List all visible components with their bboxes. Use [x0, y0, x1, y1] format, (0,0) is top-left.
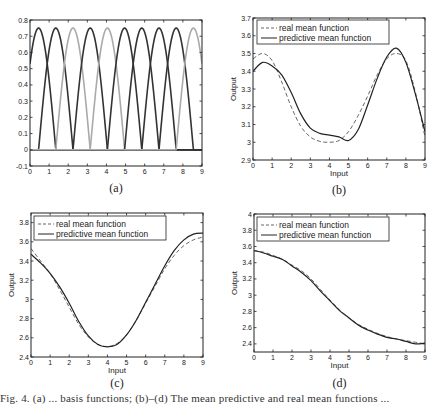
y-tick-label: 4: [248, 211, 252, 218]
y-tick-label: 3.1: [241, 121, 251, 128]
x-tick-label: 0: [28, 168, 32, 175]
y-tick-label: 3.6: [19, 238, 29, 245]
figure: 0123456789-0.100.10.20.30.40.50.60.70.8(…: [0, 0, 442, 405]
x-tick-label: 8: [404, 162, 408, 169]
predictive-mean-line: [253, 48, 425, 141]
x-tick-label: 2: [67, 359, 71, 366]
plot-area: [31, 233, 203, 347]
y-axis-label: Output: [7, 272, 16, 297]
basis-curve-basis-2: [30, 28, 202, 150]
y-tick-label: 3.2: [242, 275, 252, 282]
x-tick-label: 2: [290, 354, 294, 361]
x-tick-label: 4: [104, 168, 108, 175]
plot-area: [254, 251, 425, 344]
y-tick-label: 3.2: [241, 103, 251, 110]
x-tick-label: 5: [347, 354, 351, 361]
x-tick-label: 4: [327, 162, 331, 169]
y-tick-label: 0.3: [18, 98, 28, 105]
y-axis-label: Output: [230, 270, 239, 295]
y-tick-label: 3.4: [242, 259, 252, 266]
legend-entry-label: predictive mean function: [56, 229, 148, 239]
x-tick-label: 7: [385, 162, 389, 169]
plot-area: [30, 28, 202, 150]
panel-label: (a): [109, 181, 122, 195]
x-tick-label: 2: [66, 168, 70, 175]
basis-curve-basis-9: [30, 28, 202, 150]
legend-entry-label: real mean function: [56, 219, 126, 229]
y-tick-label: 3.8: [19, 219, 29, 226]
y-tick-label: 3.8: [242, 227, 252, 234]
panel-label: (d): [333, 376, 347, 390]
y-tick-label: 0.8: [18, 17, 28, 24]
basis-curve-basis-4: [30, 28, 202, 150]
y-tick-label: 3: [248, 292, 252, 299]
x-tick-label: 5: [125, 359, 129, 366]
basis-curve-basis-1: [30, 28, 202, 150]
x-tick-label: 5: [347, 162, 351, 169]
y-tick-label: 3.5: [241, 50, 251, 57]
x-tick-label: 4: [328, 354, 332, 361]
x-tick-label: 9: [423, 354, 427, 361]
x-tick-label: 9: [200, 168, 204, 175]
y-tick-label: 3.7: [241, 15, 251, 22]
x-tick-label: 1: [271, 354, 275, 361]
y-tick-label: 0.1: [18, 130, 28, 137]
x-tick-label: 6: [366, 354, 370, 361]
x-tick-label: 4: [105, 359, 109, 366]
y-tick-label: 0.6: [18, 49, 28, 56]
x-tick-label: 1: [47, 168, 51, 175]
y-tick-label: 0.4: [18, 81, 28, 88]
legend: real mean functionpredictive mean functi…: [257, 20, 389, 44]
y-tick-label: 3.2: [19, 277, 29, 284]
y-tick-label: 3.4: [19, 258, 29, 265]
x-tick-label: 8: [182, 359, 186, 366]
x-tick-label: 6: [143, 168, 147, 175]
y-tick-label: 2.4: [242, 340, 252, 347]
x-tick-label: 7: [162, 168, 166, 175]
y-tick-label: 0.2: [18, 114, 28, 121]
predictive-mean-line: [254, 251, 425, 344]
x-tick-label: 0: [252, 354, 256, 361]
figure-caption: Fig. 4. (a) ... basis functions; (b)–(d)…: [0, 392, 442, 405]
x-tick-label: 0: [29, 359, 33, 366]
predictive-mean-line: [31, 233, 203, 347]
chart-panel-d: 01234567892.42.62.833.23.43.63.84InputOu…: [230, 211, 427, 391]
legend-entry-label: real mean function: [279, 23, 349, 33]
x-tick-label: 6: [366, 162, 370, 169]
y-tick-label: 3: [247, 139, 251, 146]
basis-curve-basis-8: [30, 28, 202, 150]
y-tick-label: -0.1: [16, 163, 28, 170]
y-tick-label: 3.4: [241, 68, 251, 75]
y-tick-label: 0: [24, 146, 28, 153]
x-tick-label: 3: [85, 168, 89, 175]
x-tick-label: 5: [124, 168, 128, 175]
legend-entry-label: real mean function: [279, 220, 349, 230]
legend: real mean functionpredictive mean functi…: [257, 217, 389, 241]
y-tick-label: 3.6: [241, 32, 251, 39]
y-tick-label: 2.6: [242, 324, 252, 331]
panel-label: (c): [110, 376, 123, 390]
x-axis-label: Input: [331, 361, 350, 370]
basis-curve-basis-10: [30, 28, 202, 150]
legend-entry-label: predictive mean function: [279, 230, 371, 240]
x-tick-label: 8: [404, 354, 408, 361]
y-tick-label: 3: [25, 296, 29, 303]
x-tick-label: 9: [423, 162, 427, 169]
x-tick-label: 9: [201, 359, 205, 366]
basis-curve-basis-5: [30, 28, 202, 150]
plot-area: [253, 48, 425, 142]
y-tick-label: 2.4: [19, 354, 29, 361]
panel-label: (b): [332, 183, 346, 197]
x-axis-label: Input: [330, 169, 349, 178]
x-tick-label: 8: [181, 168, 185, 175]
basis-curve-basis-7: [30, 28, 202, 150]
chart-panel-a: 0123456789-0.100.10.20.30.40.50.60.70.8(…: [16, 17, 204, 196]
x-tick-label: 0: [251, 162, 255, 169]
x-tick-label: 7: [163, 359, 167, 366]
y-tick-label: 3.3: [241, 86, 251, 93]
x-tick-label: 6: [144, 359, 148, 366]
y-axis-label: Output: [229, 76, 238, 101]
x-tick-label: 7: [385, 354, 389, 361]
y-tick-label: 3.6: [242, 243, 252, 250]
basis-curve-basis-3: [30, 28, 202, 150]
